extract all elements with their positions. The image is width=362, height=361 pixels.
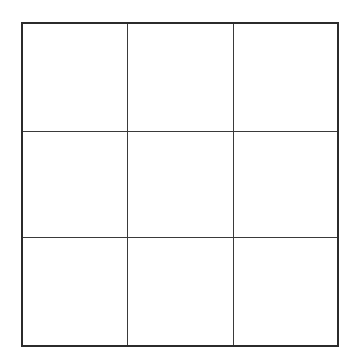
three-by-three-grid	[21, 22, 339, 347]
grid-vertical-line-1	[127, 24, 128, 345]
grid-vertical-line-2	[233, 24, 234, 345]
canvas	[0, 0, 362, 361]
grid-horizontal-line-1	[23, 131, 337, 132]
grid-horizontal-line-2	[23, 237, 337, 238]
